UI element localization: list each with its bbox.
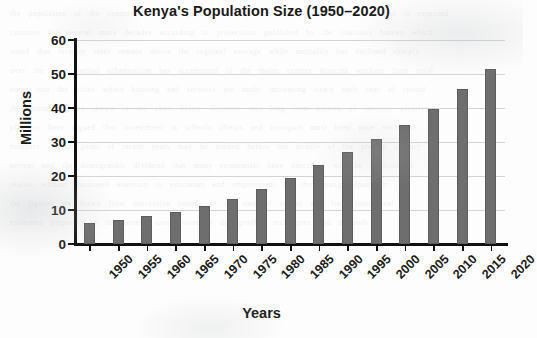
x-tick-mark xyxy=(433,245,435,251)
y-tick-label: 20 xyxy=(38,169,66,184)
x-tick-mark xyxy=(376,245,378,251)
bar xyxy=(399,125,410,244)
x-tick-mark xyxy=(491,245,493,251)
chart-title: Kenya's Population Size (1950–2020) xyxy=(0,3,523,19)
x-tick-label: 1985 xyxy=(307,252,337,282)
plot-area xyxy=(75,40,505,244)
y-tick-label: 0 xyxy=(38,237,66,252)
x-tick-label: 2015 xyxy=(479,252,509,282)
x-tick-mark xyxy=(175,245,177,251)
x-tick-mark xyxy=(233,245,235,251)
x-tick-mark xyxy=(261,245,263,251)
bar xyxy=(457,89,468,244)
x-tick-mark xyxy=(204,245,206,251)
bar xyxy=(428,109,439,244)
bar xyxy=(342,152,353,244)
x-tick-mark xyxy=(319,245,321,251)
bar xyxy=(285,178,296,244)
y-tick-label: 40 xyxy=(38,101,66,116)
x-tick-mark xyxy=(147,245,149,251)
bar xyxy=(256,189,267,244)
bar xyxy=(113,220,124,244)
y-tick-label: 10 xyxy=(38,203,66,218)
x-tick-mark xyxy=(290,245,292,251)
x-tick-label: 1960 xyxy=(164,252,194,282)
x-tick-mark xyxy=(118,245,120,251)
x-tick-mark xyxy=(462,245,464,251)
x-tick-label: 1955 xyxy=(135,252,165,282)
y-axis-tick-labels: 0102030405060 xyxy=(30,0,66,338)
y-tick-label: 50 xyxy=(38,67,66,82)
x-tick-label: 2020 xyxy=(508,252,537,282)
bar xyxy=(84,223,95,244)
bar xyxy=(371,139,382,244)
bar xyxy=(170,212,181,244)
bar xyxy=(199,206,210,244)
y-tick-label: 60 xyxy=(38,33,66,48)
bar xyxy=(141,216,152,244)
x-tick-mark xyxy=(405,245,407,251)
x-tick-label: 1950 xyxy=(106,252,136,282)
x-tick-label: 1980 xyxy=(278,252,308,282)
bar xyxy=(485,69,496,244)
x-tick-label: 2000 xyxy=(393,252,423,282)
x-tick-label: 1965 xyxy=(192,252,222,282)
x-tick-mark xyxy=(89,245,91,251)
x-tick-label: 1990 xyxy=(336,252,366,282)
x-tick-label: 2010 xyxy=(450,252,480,282)
x-tick-label: 2005 xyxy=(422,252,452,282)
y-tick-label: 30 xyxy=(38,135,66,150)
x-tick-mark xyxy=(347,245,349,251)
bar xyxy=(227,199,238,244)
bar xyxy=(313,165,324,244)
x-tick-label: 1995 xyxy=(364,252,394,282)
x-tick-label: 1975 xyxy=(250,252,280,282)
x-axis-title: Years xyxy=(0,305,523,321)
x-tick-label: 1970 xyxy=(221,252,251,282)
